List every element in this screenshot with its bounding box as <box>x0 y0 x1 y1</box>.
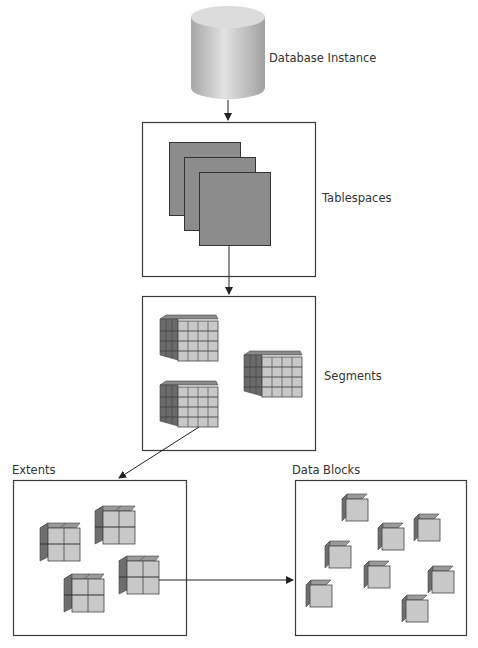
database-cylinder-icon <box>191 6 265 99</box>
extent-cube-icon <box>40 523 80 561</box>
extent-cube-icon <box>119 556 159 594</box>
tablespaces-label: Tablespaces <box>322 191 391 205</box>
segment-cube-icon <box>160 315 218 361</box>
diagram-canvas <box>0 0 478 648</box>
segments-label: Segments <box>324 369 382 383</box>
tablespace-sheets-icon <box>170 143 271 246</box>
extent-cube-icon <box>64 574 104 612</box>
extents-label: Extents <box>12 463 55 477</box>
database-instance-label: Database Instance <box>269 51 376 65</box>
segment-cube-icon <box>160 381 218 427</box>
data-blocks-box <box>296 481 467 636</box>
extent-cube-icon <box>95 506 135 544</box>
segment-cube-icon <box>244 351 302 397</box>
data-blocks-label: Data Blocks <box>292 463 360 477</box>
